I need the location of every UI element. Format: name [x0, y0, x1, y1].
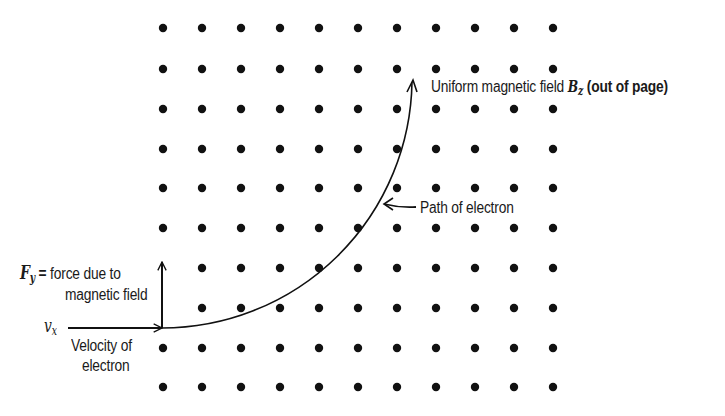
path-label: Path of electron: [420, 199, 514, 217]
field-dot: [198, 264, 206, 272]
field-dot: [276, 224, 284, 232]
field-dot: [237, 24, 245, 32]
field-dot: [432, 105, 440, 113]
field-dot: [354, 184, 362, 192]
field-dot: [471, 145, 479, 153]
field-dot: [354, 264, 362, 272]
field-dot: [471, 184, 479, 192]
field-dot: [549, 224, 557, 232]
field-label-prefix: Uniform magnetic field: [431, 78, 568, 95]
field-dot: [471, 383, 479, 391]
field-dot: [198, 383, 206, 391]
field-dot: [237, 145, 245, 153]
field-label: Uniform magnetic field Bz (out of page): [431, 78, 668, 100]
field-dot: [315, 184, 323, 192]
field-dot: [510, 344, 518, 352]
field-dot: [237, 304, 245, 312]
field-dot: [354, 65, 362, 73]
field-dot: [159, 65, 167, 73]
field-dot: [237, 264, 245, 272]
velocity-symbol: v: [44, 315, 52, 336]
field-dot: [276, 24, 284, 32]
field-dot: [237, 224, 245, 232]
field-dot: [510, 224, 518, 232]
field-dot: [276, 145, 284, 153]
field-dot: [198, 304, 206, 312]
field-dot: [432, 184, 440, 192]
field-dot: [549, 383, 557, 391]
field-dot: [198, 65, 206, 73]
field-label-suffix: (out of page): [583, 78, 668, 95]
field-dot: [510, 145, 518, 153]
force-symbol: F: [20, 262, 30, 283]
field-dot: [237, 184, 245, 192]
field-dot: [549, 304, 557, 312]
field-dot: [393, 65, 401, 73]
field-dot: [198, 344, 206, 352]
path-pointer-arrowhead: [384, 198, 393, 210]
field-dot: [549, 105, 557, 113]
field-dot: [510, 304, 518, 312]
field-dot: [510, 24, 518, 32]
field-dot: [549, 184, 557, 192]
field-symbol: B: [568, 77, 578, 96]
field-dot: [159, 344, 167, 352]
field-dot: [237, 344, 245, 352]
field-dot: [432, 24, 440, 32]
field-dot: [471, 24, 479, 32]
field-dot: [393, 383, 401, 391]
field-dot: [315, 145, 323, 153]
force-label-line2: magnetic field: [65, 286, 147, 304]
field-dot: [432, 65, 440, 73]
field-dot: [471, 65, 479, 73]
field-dot: [198, 24, 206, 32]
field-dot: [393, 304, 401, 312]
field-dot: [315, 304, 323, 312]
field-dot: [471, 224, 479, 232]
force-equals: =: [35, 265, 50, 282]
velocity-label-line1: Velocity of: [71, 337, 132, 355]
field-dot: [354, 383, 362, 391]
field-dot: [276, 304, 284, 312]
field-dot: [549, 24, 557, 32]
field-dot: [276, 184, 284, 192]
field-dot: [159, 184, 167, 192]
field-dot: [549, 145, 557, 153]
field-dot: [198, 224, 206, 232]
field-dot: [354, 224, 362, 232]
field-dot: [393, 24, 401, 32]
field-dot: [354, 304, 362, 312]
field-dot: [549, 65, 557, 73]
field-dot: [354, 105, 362, 113]
velocity-label-line2: electron: [82, 357, 130, 375]
force-label: Fy = force due to: [20, 264, 121, 287]
field-dot: [276, 105, 284, 113]
field-dot: [159, 24, 167, 32]
field-dot: [237, 105, 245, 113]
field-dot: [510, 184, 518, 192]
field-dot: [315, 344, 323, 352]
field-dot: [159, 145, 167, 153]
field-dot: [276, 344, 284, 352]
field-dot: [315, 224, 323, 232]
field-dot: [276, 264, 284, 272]
electron-path-curve: [162, 82, 412, 328]
field-dot: [471, 105, 479, 113]
field-dot: [471, 344, 479, 352]
field-dot: [471, 264, 479, 272]
field-dot: [315, 65, 323, 73]
field-dot: [393, 145, 401, 153]
field-dot: [198, 184, 206, 192]
field-dot: [393, 264, 401, 272]
force-line1: force due to: [50, 265, 121, 282]
field-dot: [510, 383, 518, 391]
field-dot: [393, 105, 401, 113]
field-dot: [159, 224, 167, 232]
field-dot: [159, 105, 167, 113]
field-dot: [354, 344, 362, 352]
field-dot: [432, 304, 440, 312]
field-dot: [393, 224, 401, 232]
field-dot: [510, 264, 518, 272]
field-dot: [315, 24, 323, 32]
field-dot: [159, 383, 167, 391]
